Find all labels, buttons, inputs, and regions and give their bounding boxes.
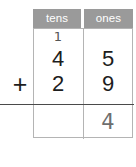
addend-1-ones-digit: 5 (87, 47, 129, 71)
grid-column-divider (83, 29, 84, 139)
column-header-tens: tens (33, 9, 81, 28)
column-header-ones: ones (84, 9, 133, 28)
column-addition-worksheet: tens ones 1 4 5 2 9 + 4 (0, 0, 136, 167)
column-header-row: tens ones (33, 9, 133, 28)
addend-1-tens-digit: 4 (37, 47, 79, 71)
sum-ones-digit[interactable]: 4 (87, 110, 129, 134)
carry-digit-tens: 1 (37, 30, 79, 44)
addition-rule-line (0, 104, 134, 105)
plus-operator: + (10, 70, 30, 98)
addend-2-tens-digit: 2 (37, 72, 79, 96)
addend-2-ones-digit: 9 (87, 72, 129, 96)
